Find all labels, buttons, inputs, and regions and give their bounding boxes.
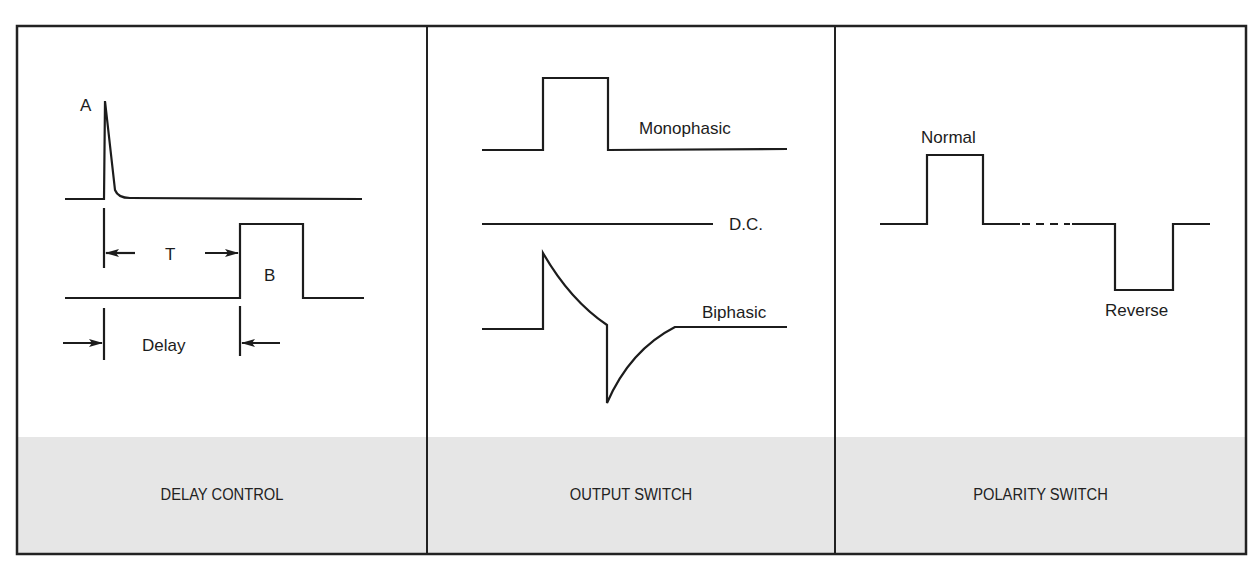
waveform-a-spike bbox=[65, 101, 362, 199]
label-normal: Normal bbox=[921, 128, 976, 147]
panel-delay-control bbox=[63, 101, 364, 360]
waveform-biphasic bbox=[482, 253, 787, 403]
waveform-monophasic bbox=[482, 78, 787, 150]
waveform-b-pulse bbox=[65, 224, 364, 298]
panel-polarity-switch bbox=[880, 155, 1210, 290]
label-pulse-a: A bbox=[80, 96, 92, 115]
waveform-reverse-pulse bbox=[1072, 224, 1210, 290]
caption-polarity-switch: POLARITY SWITCH bbox=[851, 486, 1229, 504]
label-delay: Delay bbox=[142, 336, 186, 355]
panel-output-switch bbox=[482, 78, 787, 403]
label-pulse-b: B bbox=[264, 266, 275, 285]
stimulator-control-diagram: A T B Delay Monophasic D.C. Biphasic Nor… bbox=[0, 0, 1259, 572]
caption-output-switch: OUTPUT SWITCH bbox=[443, 486, 818, 504]
label-dc: D.C. bbox=[729, 215, 763, 234]
label-reverse: Reverse bbox=[1105, 301, 1168, 320]
label-biphasic: Biphasic bbox=[702, 303, 767, 322]
label-interval-t: T bbox=[165, 245, 175, 264]
caption-delay-control: DELAY CONTROL bbox=[33, 486, 410, 504]
label-monophasic: Monophasic bbox=[639, 119, 731, 138]
waveform-normal-pulse bbox=[880, 155, 1020, 224]
